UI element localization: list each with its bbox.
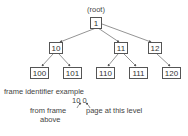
- node-1: 1: [90, 17, 102, 29]
- example-right-note: page at this level: [86, 106, 142, 115]
- root-label: (root): [87, 5, 105, 14]
- node-111: 111: [129, 67, 148, 79]
- node-10: 10: [49, 42, 63, 54]
- example-left-note-1: from frame: [30, 106, 66, 115]
- node-110: 110: [96, 67, 115, 79]
- node-12: 12: [148, 42, 162, 54]
- node-101: 101: [63, 67, 82, 79]
- node-100: 100: [30, 67, 49, 79]
- example-title: frame identifier example: [4, 87, 84, 96]
- node-11: 11: [114, 42, 128, 54]
- node-120: 120: [162, 67, 181, 79]
- example-left-note-2: above: [40, 115, 60, 124]
- example-identifier: 10 0: [72, 96, 87, 105]
